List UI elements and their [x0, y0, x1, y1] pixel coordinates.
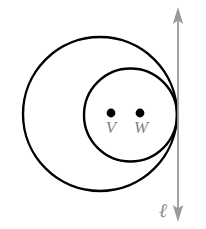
point-w-dot: [136, 109, 145, 118]
point-v-dot: [107, 109, 116, 118]
tangent-line-label: ℓ: [159, 199, 168, 221]
geometry-figure: V W ℓ: [0, 0, 206, 229]
point-w-label: W: [134, 118, 150, 137]
outer-circle: [23, 37, 177, 191]
figure-canvas: V W ℓ: [0, 0, 206, 229]
point-v-label: V: [106, 118, 119, 137]
inner-circle: [84, 69, 177, 162]
